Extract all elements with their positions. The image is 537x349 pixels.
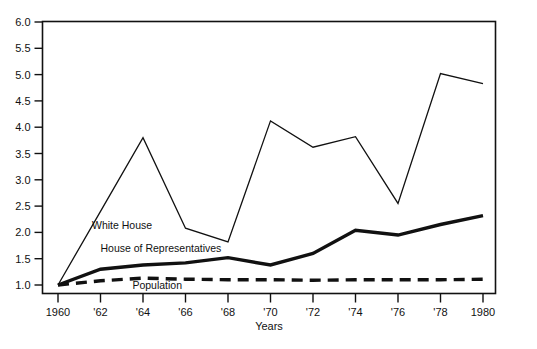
y-tick-label: 5.5	[15, 42, 30, 54]
x-axis-title: Years	[255, 320, 283, 332]
series-label-house-of-representatives: House of Representatives	[101, 242, 222, 254]
y-tick-label: 4.5	[15, 95, 30, 107]
x-tick-label: '62	[93, 306, 107, 318]
series-label-white-house: White House	[92, 219, 152, 231]
y-tick-label: 3.5	[15, 148, 30, 160]
line-chart: 1.01.52.02.53.03.54.04.55.05.56.0 1960'6…	[0, 0, 537, 349]
chart-container: 1.01.52.02.53.03.54.04.55.05.56.0 1960'6…	[0, 0, 537, 349]
chart-background	[0, 0, 537, 349]
x-tick-label: '70	[263, 306, 277, 318]
y-tick-label: 2.5	[15, 200, 30, 212]
y-tick-label: 5.0	[15, 69, 30, 81]
x-tick-label: '74	[348, 306, 362, 318]
x-tick-label: '66	[178, 306, 192, 318]
y-tick-label: 4.0	[15, 121, 30, 133]
x-tick-label: '76	[391, 306, 405, 318]
y-tick-label: 1.5	[15, 253, 30, 265]
y-tick-label: 2.0	[15, 226, 30, 238]
y-tick-label: 1.0	[15, 279, 30, 291]
x-tick-label: '64	[136, 306, 150, 318]
x-tick-label: '68	[221, 306, 235, 318]
y-tick-label: 3.0	[15, 174, 30, 186]
x-tick-label: 1960	[46, 306, 70, 318]
x-tick-label: '78	[433, 306, 447, 318]
series-label-population: Population	[132, 279, 182, 291]
y-tick-label: 6.0	[15, 16, 30, 28]
x-tick-label: '72	[306, 306, 320, 318]
x-tick-label: 1980	[471, 306, 495, 318]
